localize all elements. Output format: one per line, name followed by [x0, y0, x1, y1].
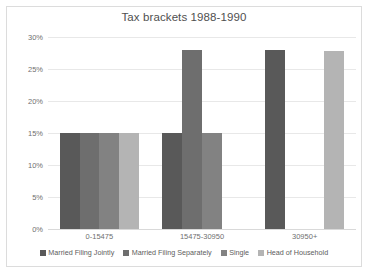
legend-label: Head of Household [267, 248, 329, 257]
legend-swatch-icon [40, 250, 46, 256]
y-axis-tick-label: 10% [28, 161, 43, 170]
legend-label: Married Filing Separately [132, 248, 212, 257]
legend-swatch-icon [221, 250, 227, 256]
bar [324, 51, 344, 229]
x-axis-tick-label: 30950+ [292, 232, 317, 241]
bar [80, 133, 100, 229]
y-axis-tick-label: 30% [28, 33, 43, 42]
chart-container: Tax brackets 1988-1990 0%5%10%15%20%25%3… [6, 6, 362, 267]
bar [119, 133, 139, 229]
bar [202, 133, 222, 229]
x-axis-tick-label: 15475-30950 [180, 232, 224, 241]
bar [265, 50, 285, 229]
legend-swatch-icon [258, 250, 264, 256]
x-axis-tick-label: 0-15475 [86, 232, 114, 241]
chart-legend: Married Filing JointlyMarried Filing Sep… [7, 248, 361, 257]
legend-item[interactable]: Married Filing Separately [123, 248, 211, 257]
legend-item[interactable]: Married Filing Jointly [40, 248, 114, 257]
legend-item[interactable]: Single [221, 248, 249, 257]
bar [99, 133, 119, 229]
y-axis-tick-label: 5% [32, 193, 43, 202]
y-axis-tick-label: 0% [32, 225, 43, 234]
y-axis-tick-label: 25% [28, 65, 43, 74]
bar-series-group [48, 37, 356, 229]
gridline [48, 229, 356, 230]
x-axis-labels: 0-1547515475-3095030950+ [48, 232, 356, 246]
chart-title: Tax brackets 1988-1990 [7, 11, 361, 23]
bar [182, 50, 202, 229]
legend-swatch-icon [123, 250, 129, 256]
y-axis-tick-label: 20% [28, 97, 43, 106]
y-axis-tick-label: 15% [28, 129, 43, 138]
legend-item[interactable]: Head of Household [258, 248, 328, 257]
bar [162, 133, 182, 229]
legend-label: Single [229, 248, 249, 257]
legend-label: Married Filing Jointly [48, 248, 114, 257]
plot-area: 0%5%10%15%20%25%30% [48, 37, 356, 229]
bar [60, 133, 80, 229]
